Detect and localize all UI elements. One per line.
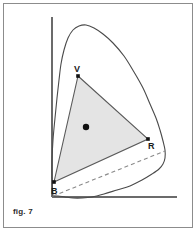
vertex-v-marker xyxy=(76,74,80,78)
vertex-label-r: R xyxy=(148,141,155,151)
chromaticity-diagram-svg xyxy=(0,0,196,231)
vertex-label-v: V xyxy=(74,64,80,74)
figure-caption: fig. 7 xyxy=(13,207,33,216)
gamut-triangle xyxy=(54,76,148,182)
vertex-label-b: B xyxy=(51,186,58,196)
vertex-b-marker xyxy=(52,180,56,184)
white-point-marker xyxy=(83,124,89,130)
figure-container: V R B fig. 7 xyxy=(0,0,196,231)
